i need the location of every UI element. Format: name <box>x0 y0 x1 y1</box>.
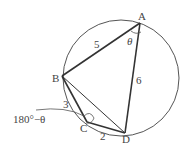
length-label-BC: 3 <box>63 98 69 110</box>
geometry-diagram: A B C D 5 6 3 2 θ 180°−θ <box>0 0 192 150</box>
point-label-A: A <box>138 10 146 22</box>
point-label-C: C <box>80 122 87 134</box>
point-label-D: D <box>122 133 130 145</box>
length-label-AB: 5 <box>94 38 100 50</box>
circumcircle <box>63 20 179 136</box>
edge-AB <box>62 23 140 76</box>
length-label-AD: 6 <box>136 74 142 86</box>
point-label-B: B <box>52 72 59 84</box>
angle-label-A: θ <box>127 35 133 47</box>
length-label-CD: 2 <box>100 130 106 142</box>
angle-label-C: 180°−θ <box>13 113 45 125</box>
